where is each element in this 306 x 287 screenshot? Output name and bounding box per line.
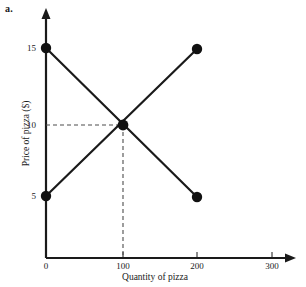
figure-panel: a. <box>0 0 306 287</box>
data-point-equilibrium-100-10 <box>118 120 129 131</box>
y-axis-title: Price of pizza ($) <box>21 84 32 184</box>
data-point-demand-0-15 <box>41 43 51 53</box>
x-tick-label-100: 100 <box>106 261 140 271</box>
x-tick-label-300: 300 <box>255 261 289 271</box>
y-tick-label-5: 5 <box>10 191 36 201</box>
data-point-supply-0-5 <box>41 191 51 201</box>
x-axis-title: Quantity of pizza <box>60 272 250 283</box>
y-tick-label-15: 15 <box>10 43 36 53</box>
equilibrium-guides <box>46 125 123 258</box>
y-axis-arrowhead <box>42 8 51 19</box>
data-point-demand-200-5 <box>192 192 202 202</box>
supply-demand-chart <box>0 0 306 287</box>
x-tick-label-200: 200 <box>180 261 214 271</box>
x-tick-label-0: 0 <box>29 261 63 271</box>
data-point-supply-200-15 <box>192 44 202 54</box>
